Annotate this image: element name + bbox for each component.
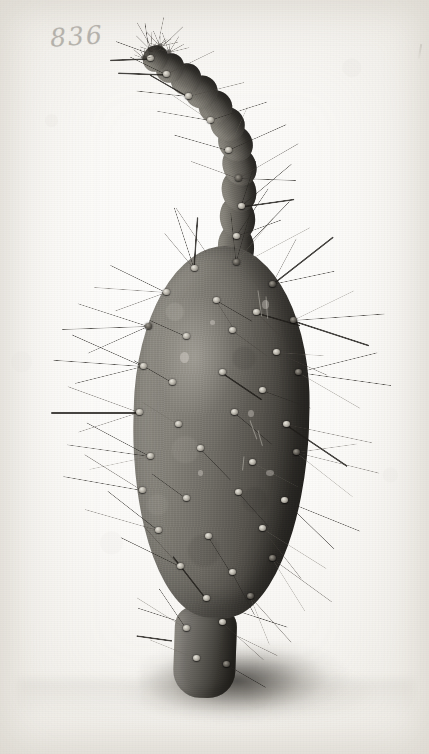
areole: [163, 71, 170, 77]
cactus-spine: [62, 326, 148, 330]
areole: [281, 497, 288, 503]
areole: [295, 369, 302, 375]
botanical-plate: 836: [0, 0, 429, 754]
areole: [247, 593, 254, 599]
cactus-spine: [250, 596, 292, 643]
catalog-number: 836: [49, 20, 105, 53]
cactus-spine: [118, 72, 166, 76]
pad-blemish: [248, 410, 254, 417]
cactus-pad: [128, 244, 314, 620]
areole: [175, 421, 182, 427]
areole: [283, 421, 290, 427]
areole: [253, 309, 260, 315]
cactus-specimen: [0, 0, 429, 754]
areole: [235, 489, 242, 495]
areole: [249, 459, 256, 465]
cactus-spine: [77, 303, 148, 327]
areole: [229, 569, 236, 575]
cactus-spine: [88, 326, 149, 354]
areole: [235, 175, 242, 181]
areole: [155, 527, 162, 533]
cactus-spine: [67, 386, 139, 413]
cactus-spine: [272, 558, 332, 602]
areole: [231, 409, 238, 415]
areole: [233, 233, 240, 239]
areole: [169, 379, 176, 385]
areole: [269, 281, 276, 287]
areole: [233, 259, 240, 265]
areole: [136, 409, 143, 415]
cactus-spine: [174, 207, 195, 268]
pad-blemish: [180, 352, 189, 363]
pad-blemish: [198, 470, 203, 476]
areole: [147, 453, 154, 459]
areole: [259, 525, 266, 531]
areole: [225, 147, 232, 153]
glochid-tuft: [136, 48, 152, 62]
pad-blemish: [266, 470, 274, 476]
areole: [273, 349, 280, 355]
areole: [205, 533, 212, 539]
cactus-spine: [293, 320, 370, 347]
areole: [163, 289, 170, 295]
areole: [203, 595, 210, 601]
areole: [223, 661, 230, 667]
glochid-tuft: [161, 42, 177, 56]
areole: [290, 317, 297, 323]
areole: [207, 117, 214, 123]
cactus-spine: [293, 314, 385, 321]
areole: [197, 445, 204, 451]
areole: [183, 495, 190, 501]
areole: [219, 369, 226, 375]
cactus-spine: [51, 412, 139, 414]
areole: [238, 203, 245, 209]
cactus-spine: [272, 558, 306, 611]
areole: [193, 655, 200, 661]
areole: [293, 449, 300, 455]
cactus-spine: [164, 233, 194, 269]
areole: [269, 555, 276, 561]
areole: [191, 265, 198, 271]
areole: [140, 363, 147, 369]
areole: [185, 93, 192, 99]
areole: [229, 327, 236, 333]
areole: [177, 563, 184, 569]
areole: [219, 619, 226, 625]
areole: [259, 387, 266, 393]
pad-blemish: [210, 320, 215, 325]
cactus-spine: [75, 366, 143, 384]
areole: [139, 487, 146, 493]
areole: [183, 333, 190, 339]
pad-grain-texture: [128, 244, 314, 620]
areole: [183, 625, 190, 631]
areole: [213, 297, 220, 303]
areole: [145, 323, 152, 329]
